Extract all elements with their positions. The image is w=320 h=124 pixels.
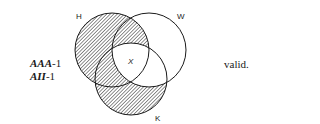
existence-mark-x: X — [127, 57, 134, 66]
label-k: K — [155, 114, 161, 123]
label-h: H — [76, 12, 82, 21]
verdict-text: valid. — [224, 58, 249, 70]
label-w: W — [177, 12, 185, 21]
